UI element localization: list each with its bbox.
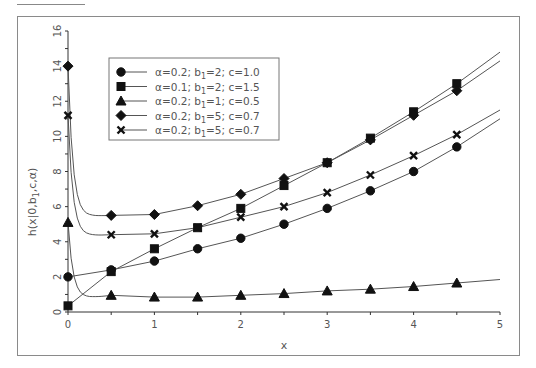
hazard-function-chart: 0123450246810121416 x h(x|0,b1,c,α) α=0.… bbox=[0, 0, 536, 368]
x-marker-icon bbox=[367, 172, 374, 179]
legend: α=0.2; b1=2; c=1.0α=0.1; b1=2; c=1.5α=0.… bbox=[109, 58, 279, 140]
y-tick-label: 4 bbox=[52, 239, 63, 245]
circle-marker-icon bbox=[366, 187, 374, 195]
circle-marker-icon bbox=[323, 204, 331, 212]
triangle-marker-icon bbox=[63, 217, 73, 226]
circle-marker-icon bbox=[150, 257, 158, 265]
circle-marker-icon bbox=[237, 234, 245, 242]
y-tick-label: 6 bbox=[52, 203, 63, 209]
circle-marker-icon bbox=[409, 167, 417, 175]
series-line bbox=[68, 119, 500, 277]
circle-marker-icon bbox=[117, 68, 125, 76]
x-tick-label: 4 bbox=[410, 319, 416, 330]
square-marker-icon bbox=[107, 268, 115, 276]
y-tick-label: 16 bbox=[52, 25, 63, 38]
y-tick-label: 14 bbox=[52, 60, 63, 73]
x-marker-icon bbox=[410, 152, 417, 159]
x-tick-label: 5 bbox=[497, 319, 503, 330]
square-marker-icon bbox=[64, 302, 72, 310]
x-marker-icon bbox=[324, 189, 331, 196]
square-marker-icon bbox=[150, 245, 158, 253]
diamond-marker-icon bbox=[106, 210, 116, 220]
x-tick-label: 1 bbox=[151, 319, 157, 330]
y-tick-label: 12 bbox=[52, 95, 63, 108]
x-marker-icon bbox=[237, 214, 244, 221]
square-marker-icon bbox=[117, 83, 125, 91]
x-axis-title: x bbox=[281, 339, 288, 352]
diamond-marker-icon bbox=[63, 61, 73, 71]
circle-marker-icon bbox=[280, 220, 288, 228]
x-marker-icon bbox=[281, 203, 288, 210]
y-tick-label: 10 bbox=[52, 130, 63, 143]
x-tick-label: 2 bbox=[238, 319, 244, 330]
x-tick-label: 0 bbox=[65, 319, 71, 330]
y-tick-label: 0 bbox=[52, 309, 63, 315]
diamond-marker-icon bbox=[193, 201, 203, 211]
diamond-marker-icon bbox=[236, 189, 246, 199]
y-tick-label: 2 bbox=[52, 274, 63, 280]
circle-marker-icon bbox=[193, 245, 201, 253]
diamond-marker-icon bbox=[149, 210, 159, 220]
y-tick-label: 8 bbox=[52, 168, 63, 174]
circle-marker-icon bbox=[453, 143, 461, 151]
y-axis-title: h(x|0,b1,c,α) bbox=[26, 168, 41, 237]
circle-marker-icon bbox=[64, 273, 72, 281]
triangle-marker-icon bbox=[106, 290, 116, 299]
x-tick-label: 3 bbox=[324, 319, 330, 330]
square-marker-icon bbox=[237, 204, 245, 212]
x-marker-icon bbox=[453, 131, 460, 138]
